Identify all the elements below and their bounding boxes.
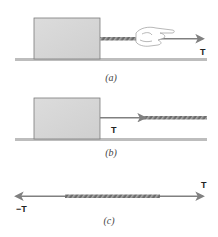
hand-icon [136,27,174,46]
rope [65,195,160,199]
caption-a: (a) [91,72,131,84]
panel-c [16,195,203,199]
force-label-t-b: T [111,125,117,135]
caption-b: (b) [91,147,131,159]
block [34,98,100,139]
rope [141,116,207,120]
panel-a [15,18,207,61]
force-label-t-c: T [201,180,207,190]
force-label-neg-t-c: −T [16,204,27,214]
tension-diagram [0,0,218,237]
force-label-t-a: T [200,47,206,57]
caption-c: (c) [89,215,129,227]
block [34,18,100,59]
